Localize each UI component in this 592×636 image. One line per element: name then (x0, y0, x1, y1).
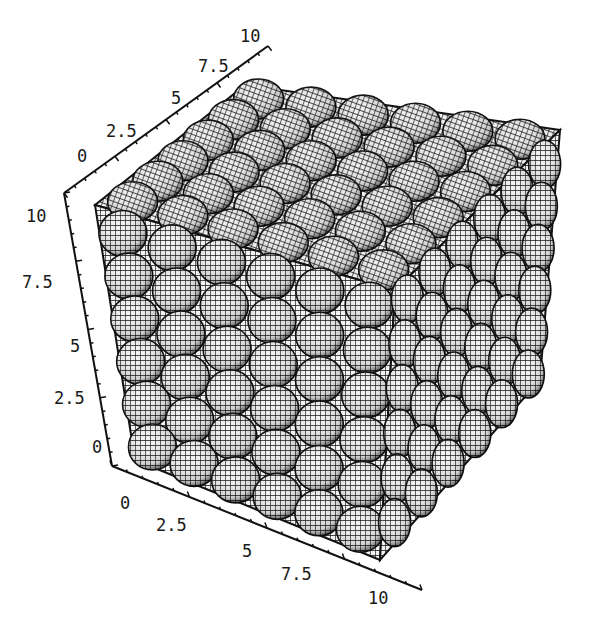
sphere-shading (105, 253, 153, 299)
tick-mark (146, 134, 148, 136)
sphere-shading (336, 506, 384, 552)
sphere-shading (251, 385, 299, 431)
left-axis-label-4: 0 (92, 437, 102, 457)
tick-mark (217, 83, 221, 88)
sphere-shading (247, 254, 295, 300)
sphere-shading (197, 239, 245, 285)
left-axis-label-2: 5 (70, 336, 80, 356)
sphere-shading (117, 339, 165, 385)
tick-mark (157, 482, 158, 485)
tick-mark (268, 46, 272, 51)
sphere-shading (200, 283, 248, 329)
sphere-shading (296, 312, 344, 358)
tick-mark (237, 68, 239, 70)
tick-mark (88, 329, 94, 330)
sphere-shading (405, 469, 437, 517)
tick-mark (74, 186, 76, 188)
tick-mark (135, 142, 137, 144)
sphere-shading (111, 296, 159, 342)
sphere-shading (249, 341, 297, 387)
tick-mark (405, 581, 406, 584)
sphere-shading (340, 417, 388, 463)
tick-mark (204, 501, 205, 504)
tick-mark (126, 470, 127, 473)
tick-mark (186, 105, 188, 107)
sphere-mesh-group (99, 79, 561, 552)
tick-mark (100, 397, 106, 398)
top-axis-label-3: 7.5 (198, 56, 229, 76)
sphere-shading (516, 308, 548, 356)
sphere-shading (525, 182, 557, 230)
tick-mark (173, 488, 174, 491)
tick-mark (166, 120, 170, 125)
sphere-shading (248, 298, 296, 344)
sphere-shading (338, 461, 386, 507)
sphere-shading (99, 210, 147, 256)
sphere-shading (153, 268, 201, 314)
tick-mark (250, 519, 251, 522)
top-axis-label-0: 0 (77, 146, 87, 166)
sphere-shading (203, 326, 251, 372)
tick-mark (142, 476, 143, 479)
sphere-shading (296, 268, 344, 314)
tick-mark (115, 156, 119, 161)
sphere-shading (522, 224, 554, 272)
tick-mark (176, 112, 178, 114)
bottom-axis-label-2: 5 (242, 541, 252, 561)
tick-mark (112, 465, 118, 466)
tick-mark (64, 192, 70, 193)
left-axis-label-0: 10 (26, 206, 46, 226)
bottom-axis-label-1: 2.5 (156, 515, 187, 535)
tick-mark (219, 507, 220, 510)
tick-mark (359, 563, 360, 566)
sphere-shading (459, 409, 491, 457)
top-axis-label-2: 5 (171, 88, 181, 108)
left-axis-label-3: 2.5 (54, 388, 85, 408)
tick-mark (248, 61, 250, 63)
tick-mark (156, 127, 158, 129)
sphere-shading (295, 357, 343, 403)
tick-mark (235, 513, 236, 516)
plot-canvas: 0 2.5 5 7.5 10 10 7.5 5 2.5 0 0 2.5 5 7.… (0, 0, 592, 636)
sphere-shading (295, 445, 343, 491)
sphere-shading (379, 499, 411, 547)
sphere-shading (295, 401, 343, 447)
tick-mark (125, 149, 127, 151)
sphere-shading (123, 381, 171, 427)
bottom-axis-label-3: 7.5 (281, 564, 312, 584)
left-axis-label-1: 7.5 (22, 272, 53, 292)
bottom-axis-label-4: 10 (368, 588, 388, 608)
left-axis-labels: 10 7.5 5 2.5 0 (22, 206, 102, 457)
tick-mark (281, 532, 282, 535)
tick-mark (374, 569, 375, 572)
sphere-shading (206, 370, 254, 416)
tick-mark (297, 538, 298, 541)
sphere-shading (529, 140, 561, 188)
sphere-shading (432, 439, 464, 487)
sphere-shading (157, 311, 205, 357)
sphere-shading (148, 225, 196, 271)
sphere-shading (252, 429, 300, 475)
tick-mark (105, 164, 107, 166)
sphere-shading (343, 327, 391, 373)
tick-mark (258, 53, 260, 55)
tick-mark (95, 171, 97, 173)
bottom-axis-label-0: 0 (120, 493, 130, 513)
tick-mark (312, 544, 313, 547)
tick-mark (207, 90, 209, 92)
sphere-shading (512, 350, 544, 398)
tick-mark (390, 575, 391, 578)
tick-mark (76, 260, 82, 261)
tick-mark (84, 178, 86, 180)
sphere-shading (519, 266, 551, 314)
top-axis-label-1: 2.5 (106, 121, 137, 141)
top-axis-label-4: 10 (240, 26, 260, 46)
tick-mark (328, 550, 329, 553)
sphere-shading (486, 380, 518, 428)
sphere-shading (345, 282, 393, 328)
sphere-shading (342, 372, 390, 418)
tick-mark (197, 97, 199, 99)
